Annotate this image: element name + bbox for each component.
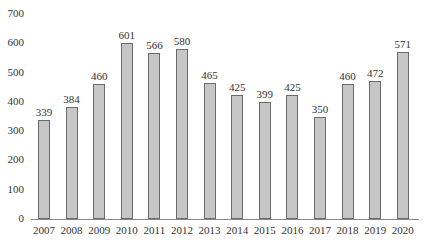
y-tick-label: 600 — [0, 37, 24, 48]
x-tick-label: 2010 — [112, 225, 142, 236]
value-label: 460 — [84, 71, 114, 82]
bar-2009 — [93, 84, 105, 219]
x-tick-label: 2007 — [29, 225, 59, 236]
y-tick-label: 500 — [0, 67, 24, 78]
bar-2011 — [148, 53, 160, 219]
y-tick-label: 200 — [0, 154, 24, 165]
y-tick-label: 300 — [0, 125, 24, 136]
bar-2019 — [369, 81, 381, 219]
bar-chart: 0100200300400500600700 33938446060156658… — [0, 0, 428, 244]
x-tick-label: 2012 — [167, 225, 197, 236]
bar-2017 — [314, 117, 326, 219]
x-tick-label: 2020 — [388, 225, 418, 236]
x-tick-label: 2017 — [305, 225, 335, 236]
x-tick-label: 2013 — [195, 225, 225, 236]
bar-2016 — [286, 95, 298, 219]
bar-2010 — [121, 43, 133, 219]
value-label: 425 — [222, 82, 252, 93]
x-tick-label: 2015 — [250, 225, 280, 236]
bar-2015 — [259, 102, 271, 219]
x-tick-label: 2008 — [57, 225, 87, 236]
x-tick-label: 2016 — [277, 225, 307, 236]
x-tick-label: 2009 — [84, 225, 114, 236]
value-label: 384 — [57, 94, 87, 105]
y-tick-label: 700 — [0, 8, 24, 19]
y-tick-label: 400 — [0, 96, 24, 107]
value-label: 350 — [305, 104, 335, 115]
bar-2008 — [66, 107, 78, 219]
bar-2012 — [176, 49, 188, 219]
x-tick-label: 2018 — [333, 225, 363, 236]
value-label: 339 — [29, 107, 59, 118]
x-tick-label: 2014 — [222, 225, 252, 236]
value-label: 601 — [112, 30, 142, 41]
bar-2020 — [397, 52, 409, 219]
bar-2013 — [204, 83, 216, 219]
value-label: 399 — [250, 89, 280, 100]
bar-2007 — [38, 120, 50, 219]
value-label: 425 — [277, 82, 307, 93]
value-label: 580 — [167, 36, 197, 47]
y-tick-label: 0 — [0, 213, 24, 224]
bar-2014 — [231, 95, 243, 219]
value-label: 566 — [139, 40, 169, 51]
bar-2018 — [342, 84, 354, 219]
x-axis-line — [31, 219, 419, 220]
y-tick-label: 100 — [0, 184, 24, 195]
x-tick-label: 2019 — [360, 225, 390, 236]
x-tick-label: 2011 — [139, 225, 169, 236]
value-label: 460 — [333, 71, 363, 82]
value-label: 465 — [195, 70, 225, 81]
value-label: 571 — [388, 39, 418, 50]
value-label: 472 — [360, 68, 390, 79]
